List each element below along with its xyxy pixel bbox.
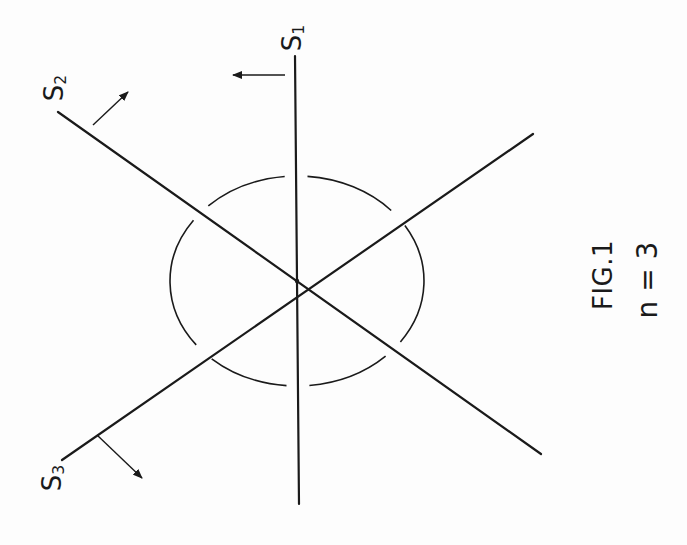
label-s2-subscript: 2 — [52, 75, 70, 85]
circle-arc — [400, 226, 424, 342]
figure-n-value: n = 3 — [634, 242, 662, 319]
arrow-s2-icon — [93, 92, 128, 125]
diagram-canvas — [0, 0, 687, 545]
label-s3: S3 — [39, 465, 67, 491]
label-s1-subscript: 1 — [290, 25, 308, 35]
center-point — [295, 279, 299, 283]
label-s2-main: S — [39, 85, 69, 102]
label-s2: S2 — [41, 75, 69, 101]
circle-arc — [309, 356, 385, 385]
patent-figure: S1 S2 S3 FIG.1 n = 3 — [0, 0, 687, 545]
circle-arc — [308, 176, 392, 210]
circle-arc — [208, 177, 284, 206]
label-s1: S1 — [279, 25, 307, 51]
label-s3-main: S — [37, 475, 67, 492]
circle-arc — [212, 359, 287, 386]
line-s2 — [58, 112, 541, 454]
axis-lines — [58, 56, 541, 504]
figure-caption: FIG.1 — [590, 240, 616, 310]
circle-arc — [170, 220, 196, 345]
arrow-s3-icon — [97, 435, 142, 478]
label-s1-main: S — [277, 35, 307, 52]
label-s3-subscript: 3 — [50, 465, 68, 475]
